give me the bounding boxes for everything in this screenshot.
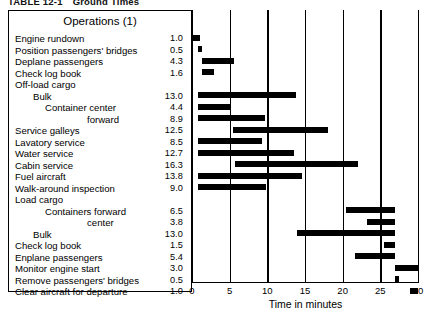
gantt-bar [198, 184, 266, 190]
operations-row: Check log book1.5 [9, 240, 191, 252]
figure-caption: TABLE 12-1Ground Times [8, 0, 268, 8]
operation-duration: 16.3 [165, 160, 183, 172]
operation-duration: 13.0 [165, 91, 183, 103]
x-tick-mark [267, 276, 268, 283]
gantt-bar [198, 138, 262, 144]
operations-row: Off-load cargo [9, 79, 191, 91]
operations-row: Fuel aircraft13.8 [9, 171, 191, 183]
operation-label: Remove passengers' bridges [15, 275, 139, 287]
operation-duration: 12.5 [165, 125, 183, 137]
gantt-bar [198, 92, 296, 98]
gantt-bar [198, 104, 231, 110]
operation-label: Load cargo [15, 194, 63, 206]
operation-label: Clear aircraft for departure [15, 286, 128, 298]
gantt-bar [202, 69, 214, 75]
x-tick-label: 20 [337, 285, 348, 296]
operation-duration: 13.0 [165, 229, 183, 241]
operations-row: Position passengers' bridges0.5 [9, 45, 191, 57]
operation-label: Check log book [15, 68, 81, 80]
operations-row: Load cargo [9, 194, 191, 206]
x-tick-label: 25 [375, 285, 386, 296]
gridline [230, 10, 231, 282]
operations-row: Lavatory service8.5 [9, 137, 191, 149]
operation-duration: 0.5 [170, 45, 183, 57]
operation-label: Monitor engine start [15, 263, 100, 275]
x-tick-label: 0 [189, 285, 194, 296]
operations-row: center3.8 [9, 217, 191, 229]
operations-row: Walk-around inspection9.0 [9, 183, 191, 195]
operations-row: Cabin service16.3 [9, 160, 191, 172]
operation-label: Off-load cargo [15, 79, 76, 91]
x-axis-title: Time in minutes [192, 298, 419, 310]
operation-label: Check log book [15, 240, 81, 252]
operations-table: Operations (1) Engine rundown1.0Position… [8, 10, 192, 292]
operation-label: Deplane passengers [15, 56, 103, 68]
operations-row: forward8.9 [9, 114, 191, 126]
gantt-bar [233, 127, 327, 133]
x-tick-label: 15 [300, 285, 311, 296]
operations-row: Clear aircraft for departure1.0 [9, 286, 191, 298]
x-tick-label: 10 [262, 285, 273, 296]
operation-label: Fuel aircraft [15, 171, 66, 183]
operations-row: Bulk13.0 [9, 229, 191, 241]
operations-row-list: Engine rundown1.0Position passengers' br… [9, 33, 191, 298]
operation-duration: 12.7 [165, 148, 183, 160]
gridline [343, 10, 344, 282]
operation-label: Position passengers' bridges [15, 45, 137, 57]
operations-row: Remove passengers' bridges0.5 [9, 275, 191, 287]
operations-row: Enplane passengers5.4 [9, 252, 191, 264]
operations-row: Container center4.4 [9, 102, 191, 114]
operation-duration: 13.8 [165, 171, 183, 183]
operation-duration: 0.5 [170, 275, 183, 287]
gantt-bar [198, 150, 294, 156]
gantt-bar [367, 219, 396, 225]
gantt-bar [297, 230, 395, 236]
operation-label: center [87, 217, 114, 229]
operation-duration: 8.9 [170, 114, 183, 126]
operation-duration: 1.0 [170, 286, 183, 298]
operation-duration: 3.8 [170, 217, 183, 229]
operation-label: Bulk [33, 91, 52, 103]
gantt-bar [355, 253, 396, 259]
x-tick-mark [343, 276, 344, 283]
x-tick-mark [192, 276, 193, 283]
operation-label: Water service [15, 148, 73, 160]
gantt-bar [346, 207, 395, 213]
gantt-bar [395, 265, 418, 271]
x-tick-label: 30 [413, 285, 424, 296]
gantt-bar [235, 161, 358, 167]
operation-duration: 1.6 [170, 68, 183, 80]
x-tick-mark [380, 276, 381, 283]
gantt-bar [202, 58, 234, 64]
operation-label: forward [87, 114, 119, 126]
gantt-bar [384, 242, 395, 248]
operations-row: Monitor engine start3.0 [9, 263, 191, 275]
caption-title: Ground Times [73, 0, 140, 7]
gridline [267, 10, 268, 282]
x-tick-mark [418, 276, 419, 283]
gantt-bar [198, 173, 302, 179]
operation-label: Enplane passengers [15, 252, 102, 264]
caption-number: TABLE 12-1 [8, 0, 63, 7]
gantt-chart-figure: TABLE 12-1Ground Times Operations (1) En… [0, 0, 432, 320]
gantt-bar [192, 35, 200, 41]
operation-duration: 1.5 [170, 240, 183, 252]
operation-duration: 9.0 [170, 183, 183, 195]
operations-row: Check log book1.6 [9, 68, 191, 80]
x-tick-label: 5 [227, 285, 232, 296]
operations-row: Deplane passengers4.3 [9, 56, 191, 68]
x-tick-mark [230, 276, 231, 283]
gridline [380, 10, 381, 282]
operation-label: Engine rundown [15, 33, 84, 45]
operation-label: Container center [45, 102, 116, 114]
operation-duration: 4.4 [170, 102, 183, 114]
operation-label: Containers forward [45, 206, 126, 218]
operation-duration: 3.0 [170, 263, 183, 275]
gantt-bar [198, 115, 265, 121]
operation-duration: 8.5 [170, 137, 183, 149]
operations-table-header: Operations (1) [9, 11, 191, 31]
operations-row: Containers forward6.5 [9, 206, 191, 218]
gantt-bar [198, 46, 202, 52]
x-tick-mark [305, 276, 306, 283]
operations-row: Engine rundown1.0 [9, 33, 191, 45]
